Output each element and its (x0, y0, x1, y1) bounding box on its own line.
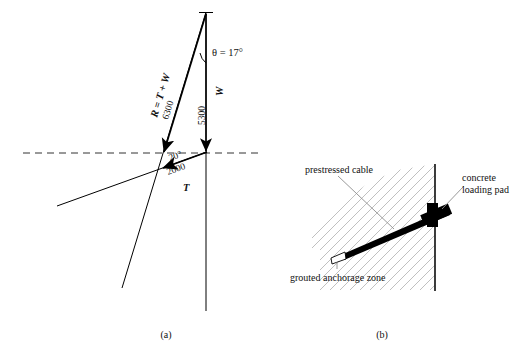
concrete-loading-pad (420, 203, 452, 227)
label-grouted-anchorage-zone: grouted anchorage zone (290, 272, 386, 283)
label-prestressed-cable: prestressed cable (305, 164, 374, 175)
label-concrete-pad-line2: loading pad (462, 184, 509, 195)
tension-magnitude: 2000 (165, 161, 187, 177)
weight-label: W (214, 86, 225, 96)
tension-label: T (183, 182, 190, 193)
weight-magnitude: 5300 (197, 106, 207, 125)
resultant-vector-arrow (164, 14, 206, 152)
panel-b-anchorage-diagram: prestressed cable concrete loading pad g… (280, 150, 509, 341)
technical-figure: θ = 17° R = T + W 6300 5300 W 20° 2000 T… (0, 0, 523, 358)
caption-panel-a: (a) (160, 329, 171, 341)
panel-a-vector-diagram: θ = 17° R = T + W 6300 5300 W 20° 2000 T… (23, 12, 262, 341)
caption-panel-b: (b) (376, 329, 388, 341)
figure-canvas: θ = 17° R = T + W 6300 5300 W 20° 2000 T… (0, 0, 523, 358)
theta-label: θ = 17° (212, 47, 243, 58)
leader-concrete-loading-pad (442, 186, 464, 209)
grouted-anchorage-tip (331, 252, 346, 264)
theta-angle-arc (200, 53, 206, 63)
label-concrete-pad-line1: concrete (462, 172, 496, 183)
